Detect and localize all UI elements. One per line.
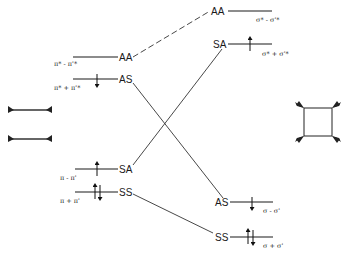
right-level-SS: SS σ + σ' [215, 230, 283, 250]
right-level-AS: AS σ - σ' [215, 197, 280, 215]
correlation-line-AS [133, 83, 223, 198]
symmetry-label: AA [119, 52, 133, 63]
orbital-label: π - π' [60, 174, 77, 182]
orbital-label: σ - σ' [263, 207, 280, 215]
orbital-label: π* - π'* [54, 60, 78, 68]
orbital-label: π + π' [60, 197, 80, 205]
left-level-AS: AS π* + π'* [54, 74, 133, 92]
left-level-SA: SA π - π' [60, 163, 133, 182]
symmetry-label: AS [119, 74, 133, 85]
ethylene-pair-icon [8, 106, 52, 142]
ethylene-top [8, 106, 52, 113]
orbital-label: σ* - σ'* [256, 16, 280, 24]
correlation-line-SA [133, 49, 222, 165]
symmetry-label: SS [215, 232, 229, 243]
symmetry-label: SA [213, 39, 227, 50]
orbital-label: σ* + σ'* [262, 50, 289, 58]
orbital-label: π* + π'* [54, 84, 81, 92]
correlation-line-AA [133, 11, 210, 57]
symmetry-label: AA [211, 6, 225, 17]
symmetry-label: AS [215, 197, 229, 208]
ethylene-bottom [8, 135, 52, 142]
orbital-label: σ + σ' [263, 242, 283, 250]
correlation-line-SS [133, 194, 213, 233]
right-level-AA: AA σ* - σ'* [211, 6, 280, 24]
cyclobutane-icon [295, 101, 341, 143]
symmetry-label: SA [119, 164, 133, 175]
left-level-SS: SS π + π' [60, 185, 133, 205]
orbital-correlation-diagram: AA π* - π'* AS π* + π'* SA π - π' SS π +… [0, 0, 348, 253]
left-level-AA: AA π* - π'* [54, 52, 133, 68]
right-level-SA: SA σ* + σ'* [213, 38, 289, 58]
symmetry-label: SS [119, 187, 133, 198]
